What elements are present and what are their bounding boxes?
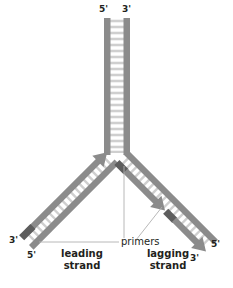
caption-lagging-strand: lagging strand xyxy=(131,248,205,272)
label-leading-new-end: 5' xyxy=(27,251,36,260)
label-parent-top-left: 5' xyxy=(99,5,108,14)
caption-primers: primers xyxy=(121,237,159,247)
label-parent-top-right: 3' xyxy=(122,5,131,14)
fork-diagram-svg xyxy=(0,0,233,288)
leading-base-pairs xyxy=(27,157,113,243)
parental-base-pairs xyxy=(110,18,124,153)
label-leading-template-end: 3' xyxy=(9,236,18,245)
leading-strand-arm xyxy=(16,147,119,250)
lagging-base-pairs xyxy=(121,157,211,247)
dna-replication-fork-figure: 5' 3' 3' 5' 5' 3' leading strand lagging… xyxy=(0,0,233,288)
lagging-template-backbone xyxy=(124,150,218,244)
parental-duplex xyxy=(104,18,130,155)
parental-backbone-right xyxy=(124,18,131,155)
leading-template-backbone xyxy=(29,160,119,250)
leading-new-strand xyxy=(22,147,113,238)
label-lagging-template-end: 5' xyxy=(211,240,220,249)
caption-leading-strand: leading strand xyxy=(45,248,119,272)
parental-backbone-left xyxy=(104,18,111,155)
